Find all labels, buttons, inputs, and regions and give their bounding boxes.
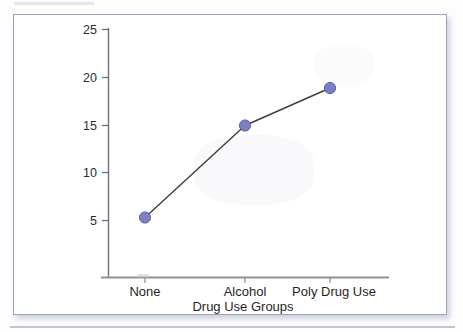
data-point-poly-drug-use — [324, 82, 335, 93]
y-tick-label-15: 15 — [83, 119, 97, 133]
scan-speck — [137, 274, 149, 278]
y-tick-label-20: 20 — [83, 71, 97, 85]
data-point-none — [139, 212, 150, 223]
data-point-alcohol — [239, 120, 250, 131]
line-chart: 25 20 15 10 5 None Alcohol — [0, 0, 463, 332]
data-line — [145, 88, 330, 218]
y-tick-label-25: 25 — [83, 23, 97, 37]
x-category-label-alcohol: Alcohol — [224, 284, 267, 299]
scanned-page: 25 20 15 10 5 None Alcohol — [0, 0, 463, 332]
y-tick-label-5: 5 — [90, 214, 97, 228]
y-axis-ticks — [102, 30, 109, 221]
y-tick-label-10: 10 — [83, 166, 97, 180]
x-category-label-none: None — [129, 284, 160, 299]
data-points — [139, 82, 335, 223]
x-axis-title: Drug Use Groups — [192, 299, 294, 314]
x-category-label-poly-drug-use: Poly Drug Use — [292, 284, 376, 299]
